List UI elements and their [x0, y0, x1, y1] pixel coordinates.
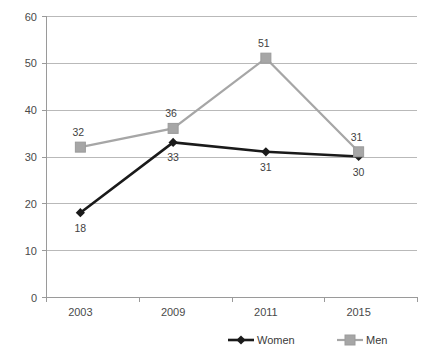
- x-axis-tick-label: 2003: [68, 306, 92, 318]
- y-axis-tick-label: 10: [25, 245, 37, 257]
- line-chart: 0102030405060 2003200920112015 183331303…: [0, 0, 426, 353]
- data-label-men: 36: [165, 107, 177, 119]
- data-point-marker-men: [354, 147, 364, 157]
- legend-marker-women: [236, 335, 245, 344]
- x-axis-tick-label: 2015: [346, 306, 370, 318]
- data-point-marker-men: [261, 53, 271, 63]
- axes-group: [46, 16, 417, 302]
- data-label-women: 18: [75, 222, 87, 234]
- y-axis-tick-label: 20: [25, 198, 37, 210]
- data-label-women: 31: [260, 161, 272, 173]
- x-axis-tick-label: 2009: [161, 306, 185, 318]
- data-point-marker-women: [261, 147, 270, 156]
- data-label-men: 51: [258, 37, 270, 49]
- y-axis-tick-labels: 0102030405060: [25, 11, 46, 304]
- series-line-men: [80, 58, 358, 152]
- legend-label-men: Men: [366, 334, 387, 346]
- y-axis-tick-label: 60: [25, 11, 37, 23]
- data-label-women: 30: [353, 166, 365, 178]
- x-axis-tick-labels: 2003200920112015: [68, 306, 371, 318]
- legend-marker-men: [345, 335, 355, 345]
- legend-label-women: Women: [257, 334, 295, 346]
- data-label-women: 33: [167, 151, 179, 163]
- chart-legend: WomenMen: [228, 334, 387, 346]
- data-point-marker-men: [168, 123, 178, 133]
- data-label-men: 31: [351, 131, 363, 143]
- series-lines-group: [80, 58, 358, 213]
- x-axis-tick-label: 2011: [254, 306, 278, 318]
- series-markers-group: [75, 53, 363, 217]
- chart-canvas: 0102030405060 2003200920112015 183331303…: [0, 0, 426, 353]
- y-axis-tick-label: 0: [31, 292, 37, 304]
- data-point-marker-men: [75, 142, 85, 152]
- y-axis-tick-label: 50: [25, 57, 37, 69]
- y-axis-tick-label: 30: [25, 151, 37, 163]
- y-axis-tick-label: 40: [25, 104, 37, 116]
- series-line-women: [80, 142, 358, 212]
- data-label-men: 32: [73, 126, 85, 138]
